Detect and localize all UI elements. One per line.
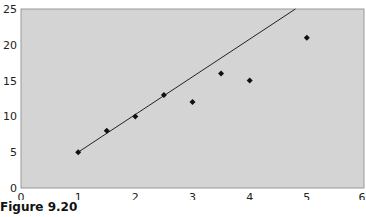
x-tick-label: 3 <box>189 191 196 200</box>
x-tick-label: 6 <box>359 191 366 200</box>
figure-caption: Figure 9.20 <box>0 200 77 214</box>
x-axis-ticks: 0123456 <box>18 191 366 200</box>
x-tick-label: 1 <box>75 191 82 200</box>
y-tick-label: 25 <box>3 3 17 16</box>
y-tick-label: 15 <box>3 75 17 88</box>
y-tick-label: 20 <box>3 39 17 52</box>
plot-area <box>21 9 364 188</box>
y-tick-label: 5 <box>10 146 17 159</box>
y-axis-ticks: 0510152025 <box>3 3 17 195</box>
y-tick-label: 10 <box>3 110 17 123</box>
scatter-chart: 0510152025 0123456 <box>0 0 366 200</box>
x-tick-label: 0 <box>18 191 25 200</box>
x-tick-label: 4 <box>246 191 253 200</box>
x-tick-label: 2 <box>132 191 139 200</box>
x-tick-label: 5 <box>303 191 310 200</box>
y-tick-label: 0 <box>10 182 17 195</box>
